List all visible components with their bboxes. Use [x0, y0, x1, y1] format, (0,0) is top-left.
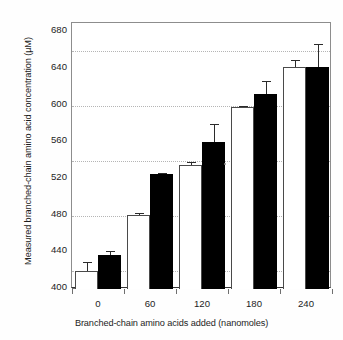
x-tick-mark	[72, 289, 73, 294]
error-bar-cap	[210, 124, 219, 125]
error-bar-cap	[135, 213, 144, 214]
bar-open-bar-180	[231, 107, 254, 289]
bar-open-bar-0	[75, 271, 98, 289]
error-bar-cap	[187, 162, 196, 163]
y-tick-label: 640	[51, 61, 67, 72]
x-tick-label-180: 180	[234, 298, 274, 309]
bar-filled-bar-120	[202, 142, 225, 289]
error-bar-cap	[83, 262, 92, 263]
error-bar	[214, 124, 215, 142]
y-tick-label: 520	[51, 171, 67, 182]
x-tick-mark	[332, 289, 333, 294]
error-bar-cap	[291, 60, 300, 61]
x-axis-title: Branched-chain amino acids added (nanomo…	[0, 318, 343, 328]
chart-figure: Measured branched-chain amino acid conce…	[0, 0, 343, 340]
y-tick-label: 600	[51, 98, 67, 109]
x-tick-label-240: 240	[286, 298, 326, 309]
error-bar-cap	[314, 44, 323, 45]
x-tick-mark	[228, 289, 229, 294]
error-bar-cap	[106, 251, 115, 252]
error-bar	[295, 60, 296, 67]
error-bar-cap	[158, 173, 167, 174]
y-tick-label: 560	[51, 134, 67, 145]
bar-filled-bar-60	[150, 174, 173, 289]
error-bar	[87, 262, 88, 270]
y-tick-label: 440	[51, 244, 67, 255]
error-bar	[318, 44, 319, 67]
plot-area: 060120180240	[71, 22, 331, 288]
bar-open-bar-240	[283, 67, 306, 289]
y-tick-label: 400	[51, 281, 67, 292]
x-tick-label-60: 60	[130, 298, 170, 309]
bar-open-bar-120	[179, 165, 202, 289]
bar-filled-bar-240	[306, 67, 329, 289]
error-bar-cap	[262, 81, 271, 82]
y-axis-title: Measured branched-chain amino acid conce…	[23, 15, 33, 287]
x-tick-mark	[124, 289, 125, 294]
artifact-speck	[224, 163, 226, 165]
error-bar	[266, 81, 267, 94]
gridline	[72, 51, 330, 52]
y-tick-label: 480	[51, 208, 67, 219]
y-tick-label: 680	[51, 24, 67, 35]
x-tick-mark	[176, 289, 177, 294]
x-tick-label-120: 120	[182, 298, 222, 309]
bar-filled-bar-0	[98, 255, 121, 289]
x-tick-mark	[280, 289, 281, 294]
bar-filled-bar-180	[254, 94, 277, 289]
error-bar-cap	[239, 106, 248, 107]
x-tick-label-0: 0	[78, 298, 118, 309]
bar-open-bar-60	[127, 215, 150, 289]
